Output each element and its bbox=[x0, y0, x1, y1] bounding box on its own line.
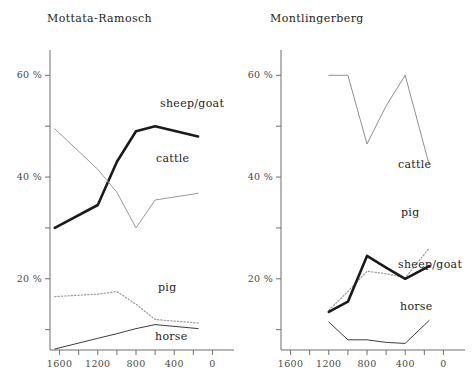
x-axis-tick-label: 400 bbox=[154, 358, 194, 369]
chart-panel-left: Mottata-Ramosch 20 %40 %60 %160012008004… bbox=[0, 0, 238, 386]
x-axis-tick-label: 1600 bbox=[40, 358, 80, 369]
series-line-cattle bbox=[55, 129, 198, 228]
series-line-sheep-goat bbox=[55, 126, 198, 228]
series-line-pig bbox=[55, 292, 198, 324]
figure-canvas: Mottata-Ramosch 20 %40 %60 %160012008004… bbox=[0, 0, 476, 386]
y-axis-tick-label: 20 % bbox=[6, 273, 42, 284]
y-axis-tick-label: 60 % bbox=[237, 69, 273, 80]
series-label-pig: pig bbox=[401, 206, 420, 219]
y-axis-tick-label: 40 % bbox=[6, 171, 42, 182]
y-axis-tick-label: 60 % bbox=[6, 69, 42, 80]
plot-area-left bbox=[0, 0, 238, 386]
series-label-horse: horse bbox=[155, 330, 188, 343]
x-axis-tick-label: 0 bbox=[423, 358, 463, 369]
series-label-sheep-goat: sheep/goat bbox=[160, 97, 224, 110]
series-label-sheep-goat: sheep/goat bbox=[398, 258, 462, 271]
series-label-horse: horse bbox=[400, 300, 433, 313]
y-axis-tick-label: 40 % bbox=[237, 171, 273, 182]
series-line-cattle bbox=[329, 75, 429, 164]
series-label-cattle: cattle bbox=[398, 158, 431, 171]
x-axis-tick-label: 0 bbox=[192, 358, 232, 369]
plot-area-right bbox=[238, 0, 476, 386]
series-label-pig: pig bbox=[158, 281, 177, 294]
x-axis-tick-label: 1200 bbox=[78, 358, 118, 369]
x-axis-tick-label: 1200 bbox=[309, 358, 349, 369]
x-axis-tick-label: 1600 bbox=[271, 358, 311, 369]
series-label-cattle: cattle bbox=[156, 152, 189, 165]
chart-panel-right: Montlingerberg 20 %40 %60 %1600120080040… bbox=[238, 0, 476, 386]
y-axis-tick-label: 20 % bbox=[237, 273, 273, 284]
x-axis-tick-label: 800 bbox=[116, 358, 156, 369]
series-line-horse bbox=[329, 321, 429, 344]
x-axis-tick-label: 400 bbox=[385, 358, 425, 369]
x-axis-tick-label: 800 bbox=[347, 358, 387, 369]
